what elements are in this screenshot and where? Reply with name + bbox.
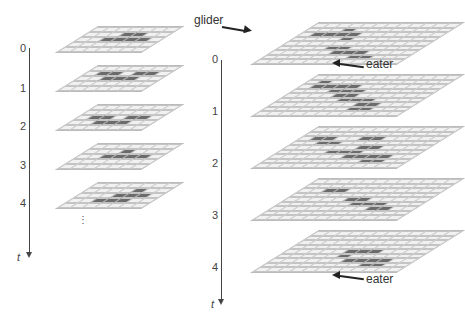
time-axis-label: t [211, 298, 214, 310]
tick-3: 3 [212, 209, 218, 221]
tick-2: 2 [212, 157, 218, 169]
tick-0: 0 [20, 42, 26, 54]
grid-plane-t3 [251, 178, 465, 221]
grid-plane-t1 [251, 74, 465, 117]
grid-plane-t4 [251, 230, 465, 273]
grid-plane-t2 [251, 126, 465, 169]
time-axis-line [221, 60, 222, 300]
grid-plane-t2 [55, 104, 184, 131]
glider-label: glider [194, 13, 223, 27]
tick-1: 1 [212, 105, 218, 117]
grid-plane-t3 [55, 143, 184, 170]
tick-1: 1 [20, 82, 26, 94]
time-axis-arrow-icon [218, 299, 224, 305]
grid-plane-t0 [55, 26, 184, 53]
grid-plane-t0 [251, 22, 465, 65]
grid-plane-t4 [55, 182, 184, 209]
tick-2: 2 [20, 120, 26, 132]
time-axis-label: t [17, 251, 20, 263]
continuation-ellipsis: ⋮ [78, 218, 88, 222]
tick-4: 4 [212, 261, 218, 273]
tick-3: 3 [20, 159, 26, 171]
eater-label-top: eater [366, 57, 393, 71]
grid-plane-t1 [55, 65, 184, 92]
time-axis-arrow-icon [26, 252, 32, 258]
tick-0: 0 [212, 53, 218, 65]
tick-4: 4 [20, 197, 26, 209]
time-axis-line [29, 48, 30, 253]
eater-label-bottom: eater [366, 272, 393, 286]
